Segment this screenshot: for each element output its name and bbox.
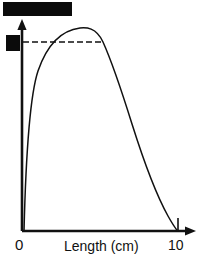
x-axis-title: Length (cm) [64, 238, 139, 254]
y-axis-arrowhead-icon [17, 19, 26, 30]
plot-area [0, 0, 199, 261]
data-curve [24, 28, 178, 231]
x-axis-arrowhead-icon [185, 227, 196, 236]
x-axis-tick-label-10: 10 [168, 237, 184, 253]
x-axis-tick-label-0: 0 [15, 236, 23, 253]
figure-container: 0 Length (cm) 10 [0, 0, 199, 261]
